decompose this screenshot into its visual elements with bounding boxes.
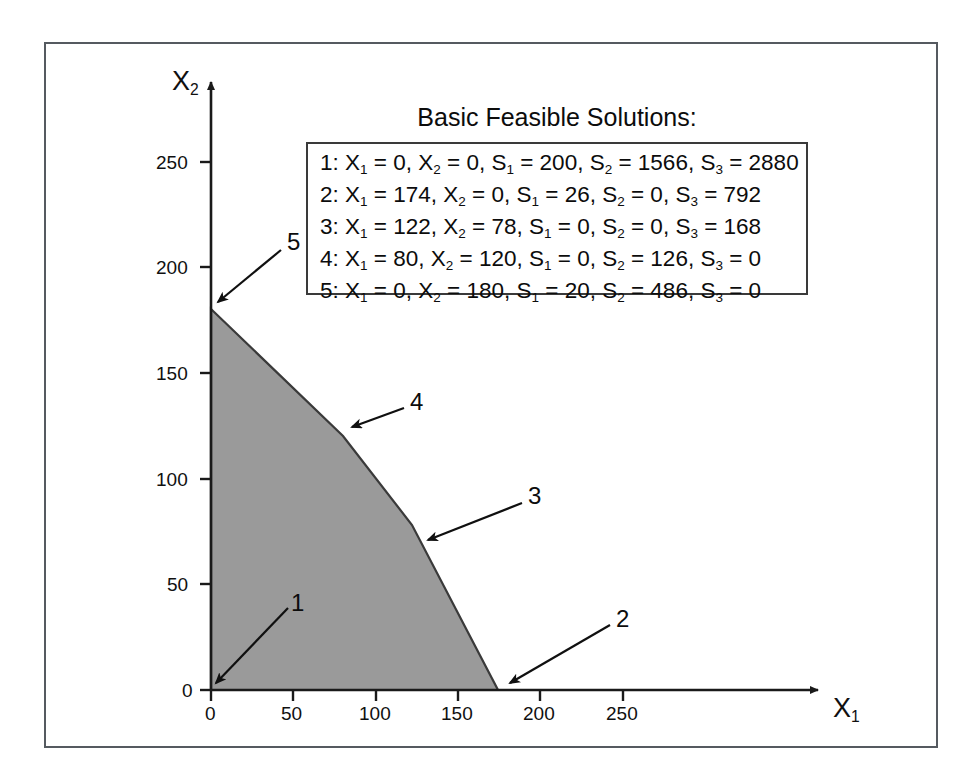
legend-row-x1: 0 [393, 150, 406, 175]
legend-row: 5: X1 = 0, X2 = 180, S1 = 20, S2 = 486, … [320, 276, 806, 308]
x-tick-label-200: 200 [523, 703, 555, 725]
callout-label-1: 1 [291, 589, 304, 617]
y-axis-label-text: X [172, 66, 190, 96]
y-tick-label-200: 200 [156, 257, 188, 279]
callout-arrow-2 [510, 625, 610, 683]
x-axis-label-text: X [833, 693, 851, 723]
legend-row-s1: 26 [565, 182, 590, 207]
callout-label-2: 2 [616, 605, 629, 633]
legend-row: 2: X1 = 174, X2 = 0, S1 = 26, S2 = 0, S3… [320, 180, 806, 212]
legend-row-s3: 0 [749, 246, 762, 271]
callout-label-3: 3 [528, 482, 541, 510]
legend-title: Basic Feasible Solutions: [306, 103, 808, 132]
legend-row-s1: 0 [577, 246, 590, 271]
legend-row-x1: 80 [393, 246, 418, 271]
legend-row-index: 2 [320, 182, 333, 207]
legend-row-s2: 0 [650, 182, 663, 207]
legend-row-x1: 122 [393, 214, 431, 239]
callout-arrow-5 [218, 250, 281, 302]
legend-row-s3: 0 [749, 278, 762, 303]
x-axis-label: X1 [833, 693, 860, 724]
legend-row-index: 5 [320, 278, 333, 303]
x-tick-label-150: 150 [441, 703, 473, 725]
legend-row-s1: 200 [540, 150, 578, 175]
legend-row-s2: 486 [650, 278, 688, 303]
feasible-region-polygon [211, 309, 498, 690]
legend-row-index: 4 [320, 246, 333, 271]
y-tick-label-150: 150 [156, 363, 188, 385]
legend-row-x1: 174 [393, 182, 431, 207]
legend-row-s2: 126 [650, 246, 688, 271]
legend-row-s3: 2880 [749, 150, 799, 175]
legend-row-x2: 0 [491, 182, 504, 207]
y-tick-label-0: 0 [182, 680, 193, 702]
legend-row-s3: 168 [724, 214, 762, 239]
legend-row-s2: 1566 [638, 150, 688, 175]
callout-label-4: 4 [410, 388, 423, 416]
legend-row-s1: 20 [565, 278, 590, 303]
x-tick-label-250: 250 [606, 703, 638, 725]
y-tick-label-250: 250 [156, 152, 188, 174]
x-tick-label-0: 0 [205, 703, 216, 725]
legend-row: 3: X1 = 122, X2 = 78, S1 = 0, S2 = 0, S3… [320, 212, 806, 244]
legend-row: 1: X1 = 0, X2 = 0, S1 = 200, S2 = 1566, … [320, 148, 806, 180]
callout-arrow-4 [352, 408, 404, 427]
callout-arrow-3 [428, 503, 522, 540]
y-tick-label-100: 100 [156, 469, 188, 491]
x-axis-ticks [211, 690, 623, 701]
legend-row-s2: 0 [650, 214, 663, 239]
legend-row-x2: 0 [466, 150, 479, 175]
x-axis-label-sub: 1 [851, 708, 860, 725]
legend-row-x2: 180 [466, 278, 504, 303]
legend-row-index: 1 [320, 150, 333, 175]
legend-row-s1: 0 [577, 214, 590, 239]
x-tick-label-50: 50 [281, 703, 302, 725]
legend-row-s3: 792 [724, 182, 762, 207]
y-tick-label-50: 50 [167, 574, 188, 596]
legend-row-index: 3 [320, 214, 333, 239]
x-tick-label-100: 100 [359, 703, 391, 725]
legend-row-x2: 78 [491, 214, 516, 239]
legend-row-x1: 0 [393, 278, 406, 303]
legend-row-x2: 120 [479, 246, 517, 271]
y-axis-label: X2 [172, 66, 199, 97]
callout-label-5: 5 [287, 228, 300, 256]
y-axis-ticks [200, 162, 211, 690]
legend-box: 1: X1 = 0, X2 = 0, S1 = 200, S2 = 1566, … [306, 142, 808, 295]
legend-row: 4: X1 = 80, X2 = 120, S1 = 0, S2 = 126, … [320, 244, 806, 276]
figure-canvas: 0 50 100 150 200 250 0 50 100 150 200 25… [0, 0, 975, 783]
y-axis-label-sub: 2 [190, 81, 199, 98]
